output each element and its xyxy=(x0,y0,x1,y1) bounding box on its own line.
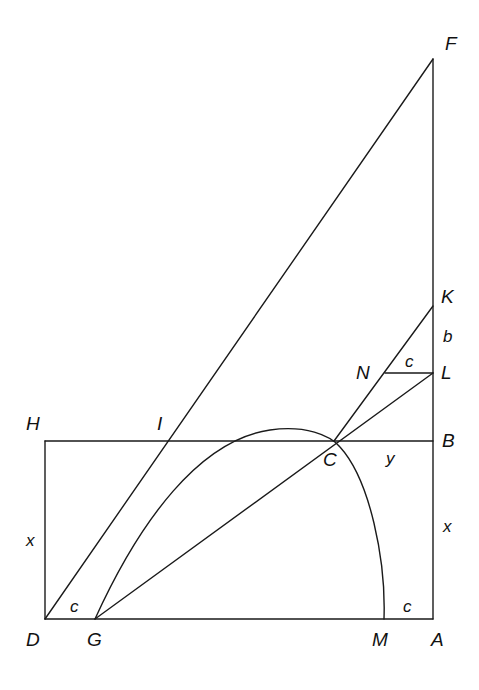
label-K: K xyxy=(441,286,455,307)
label-C: C xyxy=(323,449,337,470)
label-I: I xyxy=(157,413,163,434)
label-M: M xyxy=(372,629,388,650)
label-N: N xyxy=(356,362,370,383)
geometry-diagram: F K L N H I C B D G M A b c y x x c c xyxy=(0,0,479,690)
label-H: H xyxy=(26,413,40,434)
label-B: B xyxy=(442,430,455,451)
label-c-right: c xyxy=(403,597,412,616)
label-G: G xyxy=(87,629,102,650)
label-L: L xyxy=(441,362,452,383)
label-D: D xyxy=(26,629,40,650)
label-c-left: c xyxy=(70,597,79,616)
label-A: A xyxy=(430,629,444,650)
line-GL xyxy=(95,373,433,619)
label-c-top: c xyxy=(405,352,414,371)
label-x-right: x xyxy=(442,517,452,536)
label-F: F xyxy=(445,33,458,54)
label-y: y xyxy=(385,449,396,468)
curve-GCM xyxy=(95,429,384,619)
label-b: b xyxy=(443,327,452,346)
label-x-left: x xyxy=(25,531,35,550)
line-DF xyxy=(45,59,433,619)
